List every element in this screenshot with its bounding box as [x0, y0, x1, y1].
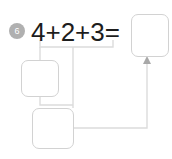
arrow-head-icon: [143, 56, 151, 64]
work-box-bottom[interactable]: [32, 108, 74, 149]
bottom-box-to-answer-box-connector: [74, 62, 147, 128]
equation-text: 4+2+3=: [31, 17, 120, 47]
math-exercise-diagram: 6 4+2+3=: [0, 0, 172, 159]
problem-number-badge: 6: [9, 23, 25, 39]
work-box-left[interactable]: [21, 60, 59, 97]
answer-box-result[interactable]: [131, 14, 169, 57]
left-box-to-bottom-box-connector: [40, 97, 73, 105]
